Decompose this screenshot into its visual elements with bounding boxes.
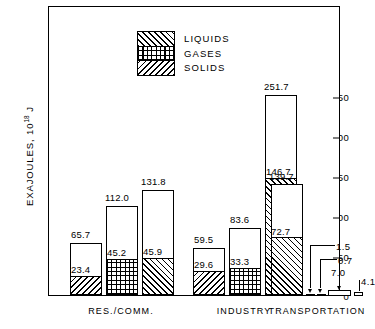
bar-segment-rescomm-1-solids xyxy=(70,276,103,295)
legend-label-liquids: LIQUIDS xyxy=(184,33,230,44)
y-axis-title: EXAJOULES, 1018 J xyxy=(23,96,35,216)
bar-segment-industry-2-gases xyxy=(229,268,262,295)
plot-area: LIQUIDS GASES SOLIDS 65.7 23.4 112.0 45.… xyxy=(48,6,340,296)
bar-total-label-industry-2: 83.6 xyxy=(230,214,249,225)
bar-segment-label-rescomm-2: 45.2 xyxy=(107,247,126,258)
bar-segment-label-industry-2: 33.3 xyxy=(230,256,249,267)
bar-total-label-industry-1: 59.5 xyxy=(194,234,213,245)
bar-transportation-5 xyxy=(354,292,363,296)
y-tick-mark-right-200 xyxy=(333,138,339,139)
legend-swatch-gases xyxy=(137,46,175,61)
y-axis-title-unit: J xyxy=(24,106,35,115)
y-tick-mark-right-250 xyxy=(333,98,339,99)
bar-segment-rescomm-3-liquids xyxy=(142,258,175,295)
y-tick-mark-right-150 xyxy=(333,178,339,179)
bar-segment-label-industry-1: 29.6 xyxy=(194,259,213,270)
group-label-transportation: TRANSPORTATION xyxy=(269,306,366,316)
group-label-res-comm: RES./COMM. xyxy=(88,306,154,316)
callout-label-4-1: 4.1 xyxy=(361,276,375,287)
bar-segment-label-industry-3: 146.7 xyxy=(266,166,291,177)
bar-total-label-rescomm-3: 131.8 xyxy=(141,176,166,187)
bar-segment-industry-1-solids xyxy=(193,271,226,295)
bar-industry-1 xyxy=(193,248,225,295)
y-tick-mark-right-100 xyxy=(333,218,339,219)
y-tick-mark-right-50 xyxy=(333,258,339,259)
legend-swatch-solids xyxy=(137,60,175,76)
bar-total-label-rescomm-2: 112.0 xyxy=(105,192,129,203)
legend-label-gases: GASES xyxy=(184,48,222,59)
bar-segment-label-rescomm-3: 45.9 xyxy=(143,246,162,257)
group-label-industry: INDUSTRY xyxy=(217,306,272,316)
bar-rescomm-3 xyxy=(142,190,174,295)
callout-leader-v-4-1 xyxy=(359,280,360,291)
bar-segment-rescomm-2-gases xyxy=(106,259,139,295)
legend-label-solids: SOLIDS xyxy=(184,62,225,73)
bar-total-label-industry-3: 251.7 xyxy=(264,81,289,92)
y-axis-title-main: EXAJOULES, 10 xyxy=(24,123,35,207)
y-axis-title-exponent: 18 xyxy=(23,115,30,122)
bar-segment-label-rescomm-1: 23.4 xyxy=(71,264,90,275)
bar-transportation-1 xyxy=(271,184,303,295)
legend-swatch-liquids xyxy=(137,31,175,47)
bar-segment-transportation-1-liquids xyxy=(271,237,304,295)
bar-total-label-rescomm-1: 65.7 xyxy=(71,229,90,240)
